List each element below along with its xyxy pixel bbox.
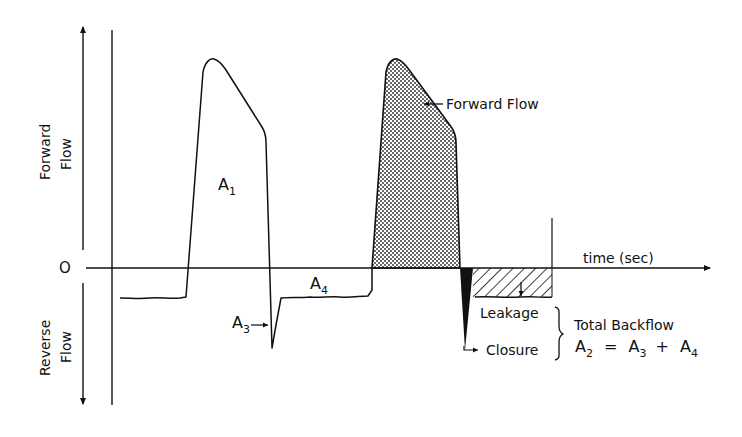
- area-a3-label: A3: [232, 313, 250, 336]
- forward-flow-axis-label: Forward: [37, 124, 53, 180]
- flow-waveform-diagram: Forward Flow Reverse Flow O A1 A3 A4 For…: [0, 0, 742, 437]
- area-a1-label: A1: [218, 175, 236, 198]
- backflow-formula: A2 = A3 + A4: [575, 337, 698, 361]
- forward-flow-axis-label-2: Flow: [58, 138, 74, 170]
- zero-label: O: [59, 259, 71, 277]
- reverse-flow-axis-label-2: Flow: [58, 331, 74, 363]
- leakage-annotation: Leakage: [480, 305, 539, 321]
- forward-flow-annotation: Forward Flow: [446, 96, 539, 112]
- time-axis-label: time (sec): [583, 250, 654, 266]
- closure-backflow-area: [460, 268, 473, 350]
- reverse-flow-axis-label: Reverse: [37, 320, 53, 376]
- backflow-brace: [555, 307, 563, 360]
- total-backflow-annotation: Total Backflow: [573, 317, 674, 333]
- forward-flow-shaded-pulse: [372, 59, 460, 268]
- area-a4-label: A4: [310, 274, 328, 297]
- closure-annotation: Closure: [486, 342, 538, 358]
- leakage-backflow-area: [473, 268, 552, 297]
- first-pulse-waveform: [120, 59, 372, 348]
